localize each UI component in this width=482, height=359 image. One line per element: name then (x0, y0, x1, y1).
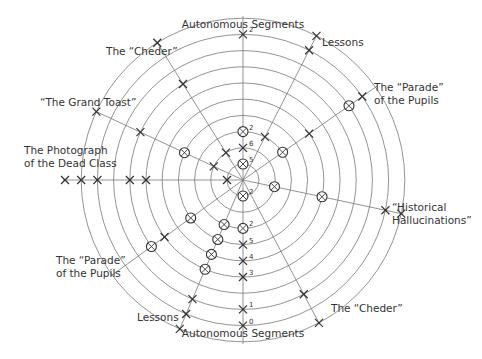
axis-spoke (95, 111, 243, 180)
circled-cross-marker-icon (213, 234, 223, 244)
marker-number: 0 (249, 318, 253, 326)
circled-cross-marker-icon (278, 147, 288, 157)
cross-marker-icon (161, 233, 169, 241)
label-lessons-bottom: Lessons (137, 311, 179, 324)
label-photograph-line2: of the Dead Class (24, 157, 117, 170)
label-photograph-dead-class: The Photograph of the Dead Class (24, 144, 117, 170)
cross-marker-icon (222, 149, 230, 157)
cross-marker-icon (179, 80, 187, 88)
cross-marker-icon: 3 (239, 269, 253, 281)
circled-cross-marker-icon: 5 (238, 156, 253, 169)
label-parade-right-line1: The “Parade” (374, 81, 444, 94)
label-autonomous-segments-top: Autonomous Segments (166, 18, 320, 31)
cross-marker-icon: 6 (239, 140, 254, 152)
marker-number: 2 (249, 220, 253, 228)
marker-number: 4 (249, 253, 254, 261)
circled-cross-marker-icon (269, 182, 279, 192)
label-parade-left-line2: of the Pupils (56, 267, 126, 280)
cross-marker-icon: 1 (239, 301, 253, 313)
cross-marker-icon (182, 310, 190, 318)
cross-marker-icon (210, 162, 218, 170)
label-cheder-bottom: The “Cheder” (331, 302, 403, 315)
label-grand-toast: “The Grand Toast” (40, 96, 136, 109)
circled-cross-marker-icon: 2 (238, 188, 253, 201)
axis-spokes (63, 16, 403, 344)
marker-number: 5 (249, 156, 253, 164)
marker-number: 2 (249, 124, 253, 132)
marker-number: 6 (249, 140, 254, 148)
marker-number: 5 (249, 237, 253, 245)
cross-marker-icon (188, 295, 196, 303)
cross-marker-icon (136, 128, 144, 136)
marker-number: 2 (249, 188, 253, 196)
circled-cross-marker-icon (186, 213, 196, 223)
label-autonomous-segments-bottom: Autonomous Segments (166, 327, 320, 340)
marker-number: 3 (249, 269, 253, 277)
label-historical-line1: “Historical (392, 201, 472, 214)
circled-cross-marker-icon (219, 220, 229, 230)
cross-marker-icon (358, 92, 366, 100)
cross-marker-icon (305, 130, 313, 138)
label-parade-left-line1: The “Parade” (56, 254, 126, 267)
cross-marker-icon (381, 206, 389, 214)
cross-marker-icon (315, 319, 323, 327)
circled-cross-marker-icon: 2 (238, 220, 253, 233)
label-historical-line2: Hallucinations” (392, 214, 472, 227)
label-parade-right-line2: of the Pupils (374, 94, 444, 107)
circled-cross-marker-icon (146, 242, 156, 252)
label-lessons-top: Lessons (322, 36, 364, 49)
circled-cross-marker-icon (317, 192, 327, 202)
cross-marker-icon (312, 32, 320, 40)
label-photograph-line1: The Photograph (24, 144, 117, 157)
cross-marker-icon (300, 290, 308, 298)
axis-spoke (243, 180, 320, 325)
marker-number: 1 (249, 301, 253, 309)
label-cheder-top: The “Cheder” (106, 45, 178, 58)
cross-marker-icon (261, 133, 269, 141)
cross-marker-icon: 5 (239, 237, 253, 249)
circled-cross-marker-icon (179, 148, 189, 158)
cross-marker-icon: 4 (239, 253, 254, 265)
circled-cross-marker-icon (344, 101, 354, 111)
label-parade-right: The “Parade” of the Pupils (374, 81, 444, 107)
cross-marker-icon (305, 46, 313, 54)
label-parade-left: The “Parade” of the Pupils (56, 254, 126, 280)
label-historical-hallucinations: “Historical Hallucinations” (392, 201, 472, 227)
circled-cross-marker-icon (206, 249, 216, 259)
circled-cross-marker-icon: 2 (238, 124, 253, 137)
radial-diagram: 22652254310 (0, 0, 482, 359)
circled-cross-marker-icon (200, 264, 210, 274)
